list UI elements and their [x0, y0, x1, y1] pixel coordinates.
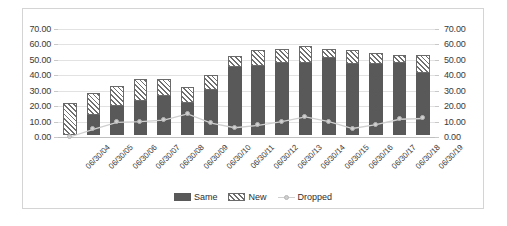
legend-item-dropped[interactable]: Dropped: [278, 192, 333, 202]
dropped-data-point[interactable]: [397, 116, 402, 121]
legend-label-dropped: Dropped: [298, 192, 333, 202]
dropped-data-point[interactable]: [185, 111, 190, 116]
dropped-line-series: [23, 9, 485, 210]
dropped-data-point[interactable]: [232, 125, 237, 130]
legend-swatch-new: [228, 193, 245, 201]
legend-item-new[interactable]: New: [228, 192, 266, 202]
chart-legend: Same New Dropped: [23, 192, 483, 202]
legend-swatch-dropped: [278, 193, 295, 201]
chart-container: 70.0070.0060.0060.0050.0050.0040.0040.00…: [22, 8, 484, 209]
legend-label-new: New: [248, 192, 266, 202]
dropped-data-point[interactable]: [350, 126, 355, 131]
legend-item-same[interactable]: Same: [174, 192, 218, 202]
dropped-data-point[interactable]: [67, 134, 72, 139]
plot-area: 70.0070.0060.0060.0050.0050.0040.0040.00…: [23, 9, 483, 208]
legend-label-same: Same: [194, 192, 218, 202]
dropped-data-point[interactable]: [373, 122, 378, 127]
dropped-data-point[interactable]: [279, 119, 284, 124]
dropped-data-point[interactable]: [326, 119, 331, 124]
legend-swatch-same: [174, 193, 191, 201]
